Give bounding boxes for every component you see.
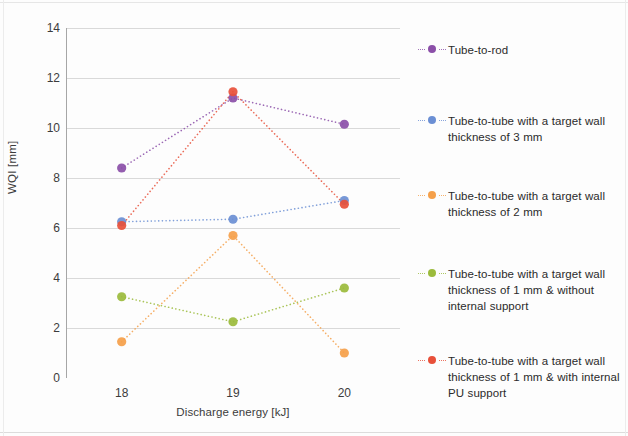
legend-dot-icon [428,45,436,53]
x-tick-label: 19 [213,386,253,400]
legend-item-label: Tube-to-tube with a target wall thicknes… [448,353,624,401]
x-axis-tick-labels: 181920 [66,386,400,402]
legend-marker-icon [418,353,448,369]
series-markers [117,283,349,326]
legend-item-label: Tube-to-tube with a target wall thicknes… [448,266,624,314]
chart-legend: Tube-to-rodTube-to-tube with a target wa… [418,16,624,420]
legend-dot-icon [428,356,436,364]
y-tick-label: 4 [24,272,60,284]
legend-line-right [439,273,446,274]
data-point [340,283,349,292]
data-point [117,337,126,346]
data-point [228,87,237,96]
data-point [340,200,349,209]
legend-item[interactable]: Tube-to-tube with a target wall thicknes… [418,113,624,145]
series-markers [117,87,349,230]
legend-line-left [418,273,425,274]
legend-line-right [439,360,446,361]
series-markers [117,93,349,172]
y-tick-label: 0 [24,372,60,384]
legend-marker-icon [418,188,448,204]
legend-item[interactable]: Tube-to-tube with a target wall thicknes… [418,266,624,314]
chart-series [122,98,345,168]
legend-item-label: Tube-to-tube with a target wall thicknes… [448,113,624,145]
legend-dot-icon [428,269,436,277]
legend-line-left [418,195,425,196]
chart-series [122,236,345,354]
y-axis-tick-labels: 02468101214 [18,0,60,436]
y-tick-label: 14 [24,22,60,34]
legend-item[interactable]: Tube-to-tube with a target wall thicknes… [418,353,624,401]
series-line [122,236,345,354]
y-tick-label: 2 [24,322,60,334]
legend-line-left [418,49,425,50]
y-tick-label: 10 [24,122,60,134]
data-point [117,221,126,230]
data-point [228,231,237,240]
x-tick-label: 18 [102,386,142,400]
scanned-page: WQI [mm] 02468101214 181920 Discharge en… [0,0,628,436]
plot-area [66,28,400,378]
y-axis-title: WQI [mm] [6,74,18,194]
series-markers [117,196,349,226]
series-line [122,98,345,168]
y-tick-label: 12 [24,72,60,84]
data-point [340,120,349,129]
plot-svg [66,28,400,378]
legend-dot-icon [428,116,436,124]
data-point [117,163,126,172]
legend-line-left [418,360,425,361]
legend-marker-icon [418,42,448,58]
y-tick-label: 8 [24,172,60,184]
legend-line-right [439,49,446,50]
data-point [228,215,237,224]
legend-marker-icon [418,113,448,129]
legend-line-left [418,120,425,121]
legend-line-right [439,120,446,121]
legend-marker-icon [418,266,448,282]
x-tick-label: 20 [324,386,364,400]
line-chart-figure: WQI [mm] 02468101214 181920 Discharge en… [0,0,628,436]
series-line [122,92,345,226]
data-point [340,348,349,357]
legend-item-label: Tube-to-rod [448,42,508,58]
legend-dot-icon [428,191,436,199]
legend-item-label: Tube-to-tube with a target wall thicknes… [448,188,624,220]
chart-series [122,92,345,226]
legend-line-right [439,195,446,196]
legend-item[interactable]: Tube-to-tube with a target wall thicknes… [418,188,624,220]
legend-item[interactable]: Tube-to-rod [418,42,624,58]
data-point [117,292,126,301]
data-point [228,317,237,326]
y-tick-label: 6 [24,222,60,234]
x-axis-title: Discharge energy [kJ] [66,406,400,418]
series-markers [117,231,349,358]
